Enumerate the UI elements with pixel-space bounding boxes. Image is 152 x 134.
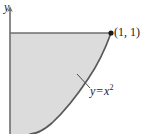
figure-graphics (0, 0, 152, 134)
figure-canvas: y (1, 1) y=x2 (0, 0, 152, 134)
curve-equation-label: y=x2 (90, 85, 113, 97)
curve-label-exponent: 2 (109, 83, 113, 92)
point-label-1-1: (1, 1) (114, 26, 140, 38)
point-marker (108, 30, 113, 35)
curve-label-equals: = (95, 84, 104, 98)
y-axis-label: y (4, 1, 9, 13)
